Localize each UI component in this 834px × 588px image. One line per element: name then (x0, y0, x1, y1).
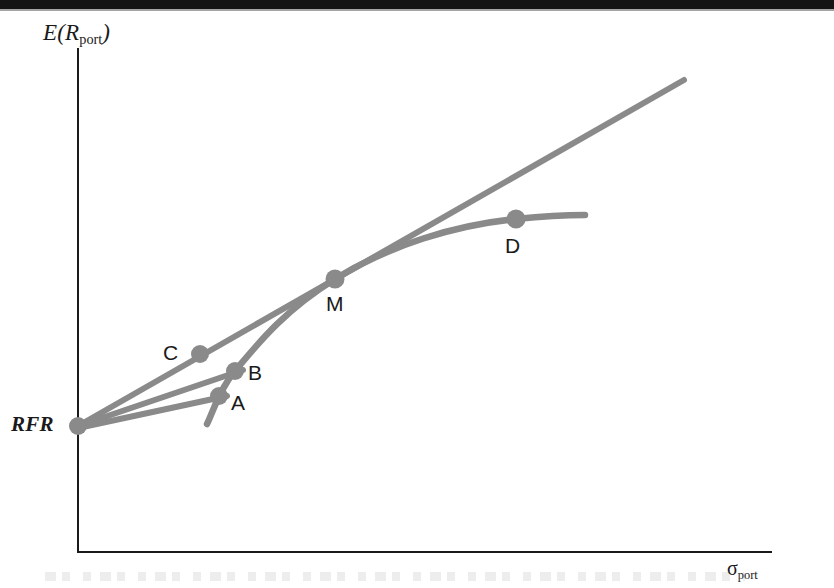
point-label-d: D (505, 235, 520, 256)
figure-capital-market-line: E(Rport) σport RFR A B C M D (0, 0, 834, 588)
marker-rfr (69, 417, 87, 435)
y-axis-label-close: ) (102, 20, 110, 45)
marker-d (507, 210, 526, 229)
marker-b (226, 362, 244, 380)
scan-ghost-artifact (45, 572, 745, 581)
point-label-a: A (231, 392, 245, 413)
marker-c (191, 345, 209, 363)
y-axis-label-main: E(R (43, 20, 79, 45)
marker-m (326, 270, 345, 289)
point-label-c: C (163, 342, 178, 363)
y-axis-label-subscript: port (79, 31, 102, 47)
plot-canvas (0, 0, 834, 588)
point-label-m: M (326, 293, 344, 314)
marker-a (210, 387, 228, 405)
point-label-b: B (248, 362, 262, 383)
rfr-label: RFR (11, 414, 54, 435)
y-axis-label: E(Rport) (43, 21, 110, 44)
